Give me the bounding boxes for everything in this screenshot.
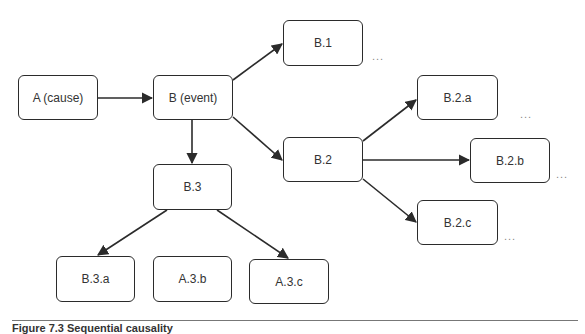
node-label: A (cause)	[33, 91, 84, 105]
edge-b3-to-a3c	[217, 210, 288, 258]
edge-b3-to-b3a	[98, 210, 167, 255]
node-b3a: B.3.a	[56, 256, 135, 302]
node-label: B.1	[314, 36, 332, 50]
caption-divider	[12, 320, 578, 321]
node-a3c: A.3.c	[249, 259, 329, 304]
node-label: B.2	[314, 153, 332, 167]
ellipsis-b2a: ...	[520, 108, 532, 120]
node-label: A.3.c	[275, 275, 302, 289]
node-label: B.2.c	[444, 216, 471, 230]
node-label: B.3	[183, 180, 201, 194]
node-label: B.3.a	[81, 272, 109, 286]
ellipsis-b2b: ...	[556, 168, 568, 180]
node-b2: B.2	[283, 137, 363, 182]
edge-b2-to-b2a	[363, 100, 416, 141]
edge-b-to-b1	[233, 44, 282, 80]
figure-caption: Figure 7.3 Sequential causality	[12, 322, 173, 334]
node-b2b: B.2.b	[470, 138, 550, 183]
node-label: B.2.a	[443, 91, 471, 105]
ellipsis-b2c: ...	[504, 230, 516, 242]
node-b2c: B.2.c	[417, 200, 498, 245]
node-b-event: B (event)	[153, 75, 233, 120]
node-label: A.3.b	[178, 272, 206, 286]
edge-b-to-b2	[233, 117, 282, 160]
node-b3: B.3	[153, 164, 232, 210]
edge-b2-to-b2c	[363, 179, 416, 222]
node-a-cause: A (cause)	[18, 75, 98, 120]
node-a3b: A.3.b	[153, 256, 232, 302]
node-label: B.2.b	[496, 154, 524, 168]
node-b2a: B.2.a	[417, 75, 498, 120]
node-b1: B.1	[283, 20, 363, 66]
ellipsis-b1: ...	[372, 50, 384, 62]
node-label: B (event)	[169, 91, 218, 105]
